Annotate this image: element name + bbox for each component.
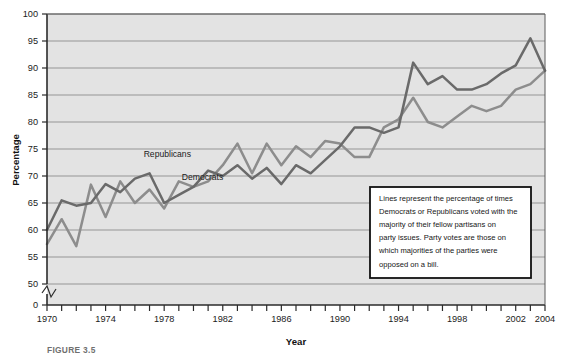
series-label-democrats: Democrats [182, 172, 224, 182]
x-tick-label-1982: 1982 [213, 314, 233, 324]
note-line-4: party issues. Party votes are those on [379, 233, 506, 242]
figure-caption: FIGURE 3.5 [47, 345, 96, 355]
y-tick-label-80: 80 [28, 117, 38, 127]
x-tick-label-1970: 1970 [37, 314, 57, 324]
x-tick-label-1994: 1994 [388, 314, 408, 324]
note-line-2: Democrats or Republicans voted with the [379, 207, 517, 216]
y-tick-label-100: 100 [23, 9, 38, 19]
y-tick-label-65: 65 [28, 198, 38, 208]
x-tick-label-2002: 2002 [505, 314, 525, 324]
y-axis-ticks: 050556065707580859095100 [23, 9, 47, 310]
y-tick-label-0: 0 [33, 300, 38, 310]
chart-note-box: Lines represent the percentage of timesD… [370, 187, 531, 278]
x-tick-label-1978: 1978 [154, 314, 174, 324]
x-tick-label-1990: 1990 [330, 314, 350, 324]
x-tick-label-1974: 1974 [95, 314, 115, 324]
x-tick-label-1998: 1998 [447, 314, 467, 324]
y-tick-label-50: 50 [28, 279, 38, 289]
party-unity-line-chart: 050556065707580859095100 197019741978198… [0, 0, 572, 356]
note-line-5: which majorities of the parties were [378, 246, 498, 255]
x-tick-label-2004: 2004 [535, 314, 555, 324]
y-tick-label-70: 70 [28, 171, 38, 181]
y-tick-label-85: 85 [28, 90, 38, 100]
x-tick-label-1986: 1986 [271, 314, 291, 324]
x-axis-ticks: 1970197419781982198619901994199820022004 [37, 305, 555, 324]
y-tick-label-95: 95 [28, 36, 38, 46]
x-axis-title: Year [286, 336, 307, 347]
y-tick-label-75: 75 [28, 144, 38, 154]
y-tick-label-90: 90 [28, 63, 38, 73]
y-axis-title: Percentage [10, 134, 21, 186]
series-label-republicans: Republicans [144, 149, 191, 159]
figure-container: 050556065707580859095100 197019741978198… [0, 0, 572, 356]
note-line-3: majority of their fellow partisans on [379, 220, 496, 229]
note-line-6: opposed on a bill. [379, 260, 439, 269]
note-line-1: Lines represent the percentage of times [379, 194, 513, 203]
y-tick-label-60: 60 [28, 225, 38, 235]
y-tick-label-55: 55 [28, 252, 38, 262]
